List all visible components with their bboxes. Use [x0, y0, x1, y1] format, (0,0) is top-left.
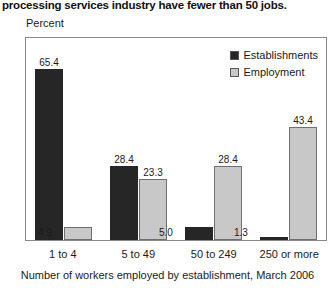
plot-frame: Establishments Employment 65.44.928.423.…: [25, 37, 327, 241]
bar: [260, 237, 288, 240]
chart-title: processing services industry have fewer …: [2, 0, 335, 12]
bar-item: 5.0: [185, 38, 213, 240]
x-axis-tick-labels: 1 to 45 to 4950 to 249250 or more: [25, 248, 327, 261]
x-axis-tick-label: 1 to 4: [25, 248, 101, 261]
chart-figure: processing services industry have fewer …: [0, 0, 335, 290]
x-axis-tick-label: 50 to 249: [176, 248, 252, 261]
bar: [35, 69, 63, 240]
y-axis-label: Percent: [26, 17, 64, 30]
bar-item: 1.3: [260, 38, 288, 240]
bar-value-label: 28.4: [114, 154, 133, 165]
x-axis-caption: Number of workers employed by establishm…: [0, 269, 335, 282]
bar-item: 65.4: [35, 38, 63, 240]
bar-value-label: 5.0: [159, 227, 173, 238]
bar-item: 4.9: [64, 38, 92, 240]
bar: [185, 227, 213, 240]
bar-item: 23.3: [139, 38, 167, 240]
bar-value-label: 43.4: [293, 115, 312, 126]
bar-value-label: 4.9: [38, 227, 52, 238]
bar-item: 43.4: [289, 38, 317, 240]
bar: [110, 166, 138, 240]
bar-group: 65.44.9: [26, 38, 101, 240]
plot-area: Establishments Employment 65.44.928.423.…: [26, 38, 326, 240]
bar-group: 5.028.4: [176, 38, 251, 240]
bar-groups: 65.44.928.423.35.028.41.343.4: [26, 38, 326, 240]
bar-value-label: 28.4: [218, 154, 237, 165]
bar-value-label: 23.3: [143, 167, 162, 178]
bar-item: 28.4: [110, 38, 138, 240]
x-axis-tick-label: 250 or more: [252, 248, 328, 261]
bar: [64, 227, 92, 240]
bar: [289, 127, 317, 240]
bar-value-label: 1.3: [234, 227, 248, 238]
bar-group: 1.343.4: [251, 38, 326, 240]
bar-value-label: 65.4: [39, 57, 58, 68]
bar-group: 28.423.3: [101, 38, 176, 240]
bar-item: 28.4: [214, 38, 242, 240]
x-axis-tick-label: 5 to 49: [101, 248, 177, 261]
